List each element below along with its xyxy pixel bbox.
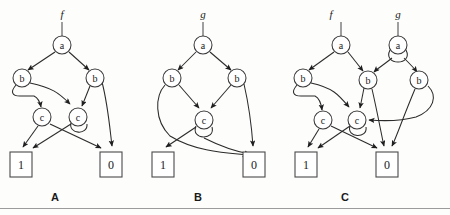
node-b-right[interactable]: b [228,69,246,87]
node-b-left[interactable]: b [294,69,312,87]
node-b-left-label: b [20,73,25,84]
edge-b-right-to-c [211,85,231,108]
node-b-right-label: b [417,75,422,86]
node-c-right[interactable]: c [69,108,87,126]
edge-ag-to-b-right [404,58,417,72]
edge-c-to-one [166,127,196,147]
panel-caption-a: A [35,191,75,203]
node-b-mid[interactable]: b [359,71,377,89]
node-b-right[interactable]: b [410,71,428,89]
terminal-one-label: 1 [160,158,166,172]
node-a-label: a [60,40,65,51]
edge-b-left-to-c-left [13,85,41,107]
node-b-left[interactable]: b [13,69,31,87]
panel-b: g a b [152,8,265,177]
node-a-f[interactable]: a [332,36,350,54]
bottom-rule [0,208,450,209]
bdd-figure: f a [0,0,450,215]
node-c-left[interactable]: c [33,108,51,126]
terminal-one-label: 1 [303,158,309,172]
edge-b-right-to-zero [244,84,253,146]
terminal-one[interactable]: 1 [295,152,317,177]
node-b-right[interactable]: b [86,69,104,87]
edge-b-mid-to-zero [372,89,384,146]
node-c-mid-label: c [355,115,360,126]
node-a-g[interactable]: a [389,36,407,54]
root-label-f: f [329,8,334,20]
node-c-right-label: c [76,112,81,123]
edge-a-to-b-left [28,52,55,70]
root-label-g: g [200,8,206,20]
edge-b-right-to-c-right [82,86,90,106]
edge-a-to-b-right [69,52,89,70]
node-b-right-label: b [93,73,98,84]
edge-b-left-to-c [179,85,199,108]
edge-c-left-to-one [308,129,319,147]
terminal-zero[interactable]: 0 [376,152,398,177]
edge-ag-to-b-mid [374,58,392,72]
node-a[interactable]: a [53,36,71,54]
edge-af-to-b-mid [348,52,363,71]
node-a-g-label: a [396,40,401,51]
node-b-left-label: b [301,73,306,84]
bdd-diagram-canvas: f a [0,0,450,215]
terminal-one-label: 1 [18,158,24,172]
edge-c-left-to-zero [331,126,377,148]
edge-c-right-to-one [33,124,71,148]
panel-caption-c: C [325,191,365,203]
node-c-left[interactable]: c [314,111,332,129]
root-label-g: g [395,8,401,20]
node-c-mid[interactable]: c [348,111,366,129]
edge-b-right-to-zero [392,89,415,146]
panel-c: f g [294,8,434,177]
terminal-zero[interactable]: 0 [100,152,122,177]
edge-c-left-to-one [23,126,38,147]
terminal-zero-label: 0 [384,158,390,172]
edge-b-right-to-zero [102,82,112,146]
terminal-one[interactable]: 1 [152,152,174,177]
panel-caption-b: B [178,191,218,203]
terminal-zero-label: 0 [108,158,114,172]
node-c[interactable]: c [195,111,213,129]
panel-a: f a [10,8,122,177]
node-b-left[interactable]: b [163,69,181,87]
edge-c-left-to-zero [50,124,101,148]
edge-b-right-to-c-mid [369,86,433,121]
terminal-one[interactable]: 1 [10,152,32,177]
node-c-label: c [202,115,207,126]
edge-af-to-b-left [309,52,334,70]
node-a-label: a [201,40,206,51]
edge-b-left-to-c-right [30,83,70,104]
node-a-f-label: a [339,40,344,51]
edge-b-mid-to-c-mid [360,88,364,108]
terminal-zero[interactable]: 0 [243,152,265,177]
node-b-right-label: b [235,73,240,84]
node-b-mid-label: b [366,75,371,86]
root-label-f: f [60,8,65,20]
node-c-left-label: c [40,112,45,123]
edge-b-left-to-c-left [294,85,322,110]
node-c-left-label: c [321,115,326,126]
node-a[interactable]: a [194,36,212,54]
edge-a-to-b-left [178,52,196,70]
edge-a-to-b-right [210,52,231,70]
edge-b-left-to-c-mid [311,83,349,107]
terminal-zero-label: 0 [251,158,257,172]
node-b-left-label: b [170,73,175,84]
